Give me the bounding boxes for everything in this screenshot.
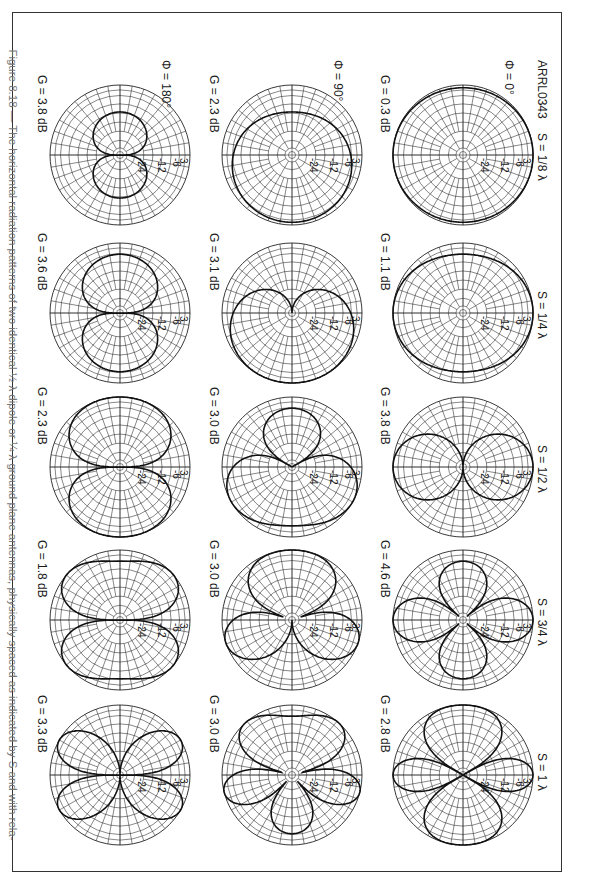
radial-tick-label: -24	[308, 316, 319, 331]
radial-tick-label: -12	[156, 158, 167, 173]
spacing-label: S = 3/4 λ	[535, 598, 549, 646]
radial-tick-label: -24	[308, 623, 319, 638]
polar-plot: 3-6-12-24G = 2.8 dB	[378, 695, 533, 845]
spacing-label: S = 1 λ	[535, 753, 549, 791]
gain-label: G = 3.6 dB	[35, 233, 49, 291]
gain-label: G = 3.3 dB	[35, 695, 49, 753]
polar-plot: 3-6-12-24G = 3.3 dB	[35, 695, 190, 845]
spacing-label: S = 1/8 λ	[535, 133, 549, 181]
radial-tick-label: -6	[171, 470, 182, 479]
gain-label: G = 3.1 dB	[207, 233, 221, 291]
radial-tick-label: -6	[343, 778, 354, 787]
radial-tick-label: -24	[308, 470, 319, 485]
radial-tick-label: -6	[343, 623, 354, 632]
gain-label: G = 3.8 dB	[378, 387, 392, 445]
gain-label: G = 3.0 dB	[207, 387, 221, 445]
radial-tick-label: -6	[514, 158, 525, 167]
radial-tick-label: -12	[328, 623, 339, 638]
polar-plot: 3-6-12-24G = 4.6 dB	[378, 540, 533, 690]
radial-tick-label: -12	[328, 470, 339, 485]
radial-tick-label: -12	[156, 316, 167, 331]
radial-tick-label: -6	[171, 623, 182, 632]
radial-tick-label: -24	[308, 158, 319, 173]
gain-label: G = 1.1 dB	[378, 233, 392, 291]
radial-tick-label: -12	[499, 623, 510, 638]
polar-plot: 3-6-12-24G = 1.1 dB	[378, 233, 533, 383]
polar-plot: 3-6-12-24G = 1.8 dB	[35, 540, 190, 690]
gain-label: G = 3.0 dB	[207, 540, 221, 598]
gain-label: G = 3.0 dB	[207, 695, 221, 753]
figure-id-label: ARRL0343	[535, 60, 549, 119]
radial-tick-label: -6	[514, 470, 525, 479]
radial-tick-label: -12	[328, 316, 339, 331]
polar-plot: 3-6-12-24G = 3.0 dB	[207, 540, 362, 690]
radial-tick-label: -6	[514, 623, 525, 632]
phase-label: Φ = 180°	[159, 60, 173, 108]
polar-plot: 3-6-12-24G = 2.3 dB	[35, 387, 190, 537]
polar-plot: 3-6-12-24G = 3.6 dB	[35, 233, 190, 383]
radial-tick-label: -12	[499, 316, 510, 331]
gain-label: G = 2.3 dB	[207, 75, 221, 133]
radial-tick-label: -12	[499, 158, 510, 173]
radial-tick-label: -6	[343, 470, 354, 479]
gain-label: G = 0.3 dB	[378, 75, 392, 133]
radial-tick-label: -12	[328, 778, 339, 793]
gain-label: G = 2.8 dB	[378, 695, 392, 753]
phase-label: Φ = 0°	[502, 60, 516, 95]
radial-tick-label: -6	[514, 778, 525, 787]
gain-label: G = 1.8 dB	[35, 540, 49, 598]
polar-plot: 3-6-12-24G = 3.8 dB	[378, 387, 533, 537]
radial-tick-label: -24	[136, 623, 147, 638]
radial-tick-label: -6	[514, 316, 525, 325]
spacing-label: S = 1/2 λ	[535, 445, 549, 493]
radial-tick-label: -24	[308, 778, 319, 793]
radial-tick-label: -24	[136, 470, 147, 485]
spacing-label: S = 1/4 λ	[535, 291, 549, 339]
polar-plot: 3-6-12-24G = 3.0 dB	[207, 695, 362, 845]
phase-label: Φ = 90°	[331, 60, 345, 102]
radial-tick-label: -24	[136, 778, 147, 793]
radial-tick-label: -6	[171, 316, 182, 325]
radial-tick-label: -24	[479, 158, 490, 173]
polar-plot-grid: ARRL0343Φ = 0°Φ = 90°Φ = 180°S = 1/8 λS …	[0, 0, 596, 889]
radial-tick-label: -24	[479, 316, 490, 331]
radial-tick-label: -24	[479, 470, 490, 485]
radial-tick-label: -12	[328, 158, 339, 173]
polar-plot: 3-6-12-24G = 0.3 dB	[378, 75, 533, 225]
polar-plot: 3-6-12-24G = 3.1 dB	[207, 233, 362, 383]
radial-tick-label: -6	[171, 158, 182, 167]
gain-label: G = 3.8 dB	[35, 75, 49, 133]
radial-tick-label: -12	[499, 470, 510, 485]
polar-plot: 3-6-12-24G = 3.0 dB	[207, 387, 362, 537]
gain-label: G = 4.6 dB	[378, 540, 392, 598]
gain-label: G = 2.3 dB	[35, 387, 49, 445]
